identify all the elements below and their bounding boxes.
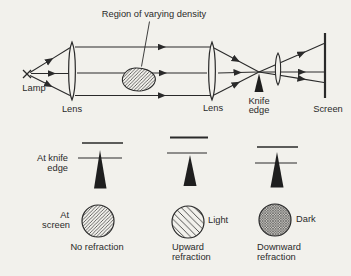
- screen-view-no-refraction: [82, 205, 114, 237]
- ray-lamp-to-lens-top: [30, 48, 70, 73]
- knife-edge-label-line2: edge: [249, 105, 270, 115]
- lens2-shape: [209, 42, 216, 100]
- schlieren-diagram-figure: Region of varying density Lamp Lens Lens…: [0, 0, 351, 276]
- screen-label: Screen: [313, 104, 342, 114]
- lens1-label: Lens: [62, 104, 83, 114]
- figure-canvas: Region of varying density Lamp Lens Lens…: [0, 0, 351, 276]
- lens1-shape: [69, 42, 76, 100]
- projection-lens-shape: [275, 53, 280, 85]
- region-leader-line: [142, 22, 150, 67]
- knife-state-no-refraction: [78, 143, 123, 189]
- caption-downward-line2: refraction: [257, 252, 296, 262]
- screen-view-downward-refraction: [259, 204, 291, 236]
- ray-diverge-top: [259, 44, 324, 73]
- region-label: Region of varying density: [102, 9, 207, 19]
- lens2-label: Lens: [203, 103, 224, 113]
- caption-upward-line1: Upward: [172, 242, 204, 252]
- lamp-label: Lamp: [22, 83, 45, 93]
- ray-converge-mid: [218, 72, 258, 73]
- caption-no-refraction: No refraction: [70, 242, 123, 252]
- at-knife-edge-label-line2: edge: [47, 163, 68, 173]
- ray-converge-top: [214, 48, 259, 72]
- caption-upward-line2: refraction: [172, 252, 211, 262]
- at-screen-label-line1: At: [60, 210, 69, 220]
- screen-view-upward-refraction: [172, 206, 204, 238]
- ray-diverge-bottom: [259, 72, 324, 83]
- result-dark-label: Dark: [296, 214, 316, 224]
- at-knife-edge-label-line1: At knife: [37, 153, 68, 163]
- at-screen-label-line2: screen: [42, 220, 70, 230]
- ray-converge-bottom: [214, 72, 259, 95]
- density-region-blob: [122, 68, 155, 91]
- result-light-label: Light: [208, 215, 229, 225]
- knife-edge-triangle: [255, 74, 264, 93]
- knife-state-downward-refraction: [255, 147, 298, 188]
- knife-state-upward-refraction: [167, 138, 208, 187]
- lamp-icon: [23, 70, 31, 78]
- caption-downward-line1: Downward: [257, 242, 301, 252]
